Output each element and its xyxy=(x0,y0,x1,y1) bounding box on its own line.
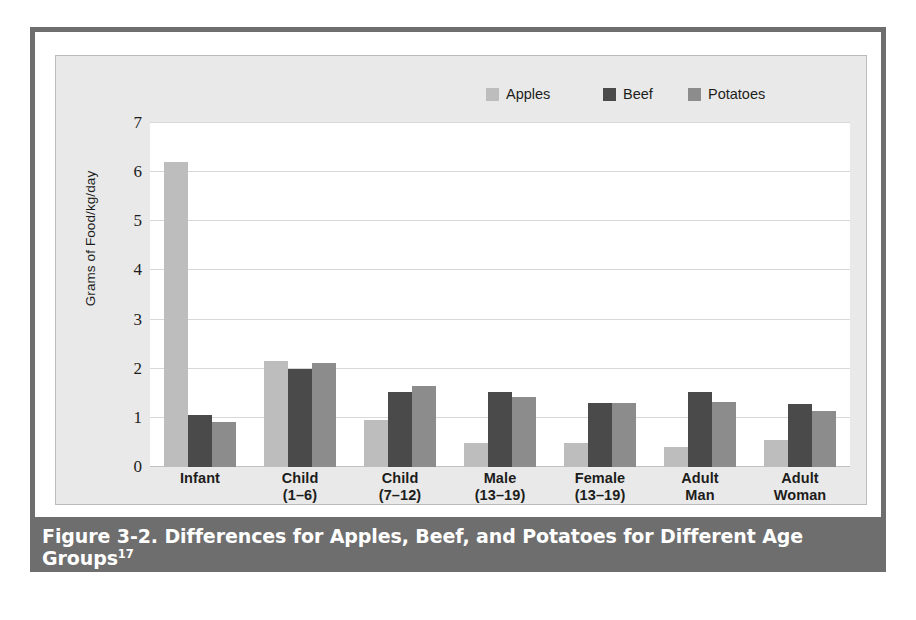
x-tick-label-line1: Adult xyxy=(781,470,819,486)
x-tick-label-line1: Infant xyxy=(180,470,220,486)
x-tick-label-line2: (7–12) xyxy=(350,487,450,504)
legend-label: Apples xyxy=(506,86,550,102)
bar-potatoes xyxy=(312,363,336,467)
bar-potatoes xyxy=(612,403,636,467)
bar-apples xyxy=(464,443,488,467)
bar-potatoes xyxy=(712,402,736,467)
legend-item-beef[interactable]: Beef xyxy=(603,86,653,102)
legend-label: Beef xyxy=(623,86,653,102)
bar-group xyxy=(164,123,236,467)
bar-potatoes xyxy=(812,411,836,468)
x-tick-label-line1: Adult xyxy=(681,470,719,486)
bar-apples xyxy=(764,440,788,467)
bar-apples xyxy=(364,420,388,467)
x-tick-label-line1: Child xyxy=(282,470,319,486)
figure-caption-text: Figure 3-2. Differences for Apples, Beef… xyxy=(42,525,803,569)
figure-caption-bar: Figure 3-2. Differences for Apples, Beef… xyxy=(30,522,886,572)
legend-swatch-beef-icon xyxy=(603,88,616,101)
y-tick-label: 5 xyxy=(116,211,142,231)
bar-group xyxy=(264,123,336,467)
y-axis-tick-labels: 01234567 xyxy=(112,123,142,467)
bar-potatoes xyxy=(412,386,436,467)
bar-group xyxy=(364,123,436,467)
legend-swatch-potatoes-icon xyxy=(688,88,701,101)
x-tick-label-line2: Woman xyxy=(750,487,850,504)
y-tick-label: 2 xyxy=(116,359,142,379)
y-tick-label: 7 xyxy=(116,113,142,133)
y-tick-label: 1 xyxy=(116,408,142,428)
bar-beef xyxy=(488,392,512,467)
bar-beef xyxy=(188,415,212,467)
figure-caption: Figure 3-2. Differences for Apples, Beef… xyxy=(30,525,886,569)
x-tick-label-line2: Man xyxy=(650,487,750,504)
bar-apples xyxy=(164,162,188,467)
legend-label: Potatoes xyxy=(708,86,765,102)
bar-group xyxy=(664,123,736,467)
legend-swatch-apples-icon xyxy=(486,88,499,101)
x-tick-label: Infant xyxy=(150,470,250,487)
bar-group xyxy=(564,123,636,467)
bar-group xyxy=(464,123,536,467)
y-tick-label: 6 xyxy=(116,162,142,182)
y-axis-title: Grams of Food/kg/day xyxy=(83,149,98,329)
y-tick-label: 0 xyxy=(116,457,142,477)
x-axis-tick-labels: InfantChild(1–6)Child(7–12)Male(13–19)Fe… xyxy=(150,470,850,526)
x-tick-label: Child(1–6) xyxy=(250,470,350,504)
bar-apples xyxy=(564,443,588,467)
x-tick-label-line1: Child xyxy=(382,470,419,486)
bar-beef xyxy=(588,403,612,467)
bar-beef xyxy=(288,369,312,467)
x-tick-label: Female(13–19) xyxy=(550,470,650,504)
legend-item-apples[interactable]: Apples xyxy=(486,86,550,102)
bar-apples xyxy=(264,361,288,467)
bar-beef xyxy=(688,392,712,467)
bar-beef xyxy=(788,404,812,467)
bar-group xyxy=(764,123,836,467)
x-tick-label: Male(13–19) xyxy=(450,470,550,504)
x-tick-label-line2: (1–6) xyxy=(250,487,350,504)
bar-potatoes xyxy=(512,397,536,467)
x-tick-label: AdultWoman xyxy=(750,470,850,504)
bars-layer xyxy=(150,123,850,467)
legend-item-potatoes[interactable]: Potatoes xyxy=(688,86,765,102)
bar-apples xyxy=(664,447,688,467)
figure-frame: Grams of Food/kg/day 01234567 InfantChil… xyxy=(30,27,886,522)
bar-potatoes xyxy=(212,422,236,467)
x-tick-label: AdultMan xyxy=(650,470,750,504)
x-tick-label-line2: (13–19) xyxy=(450,487,550,504)
figure-caption-superscript: 17 xyxy=(118,547,134,561)
x-tick-label-line1: Male xyxy=(484,470,517,486)
bar-beef xyxy=(388,392,412,467)
y-tick-label: 4 xyxy=(116,260,142,280)
chart-panel: Grams of Food/kg/day 01234567 InfantChil… xyxy=(55,55,867,505)
x-tick-label: Child(7–12) xyxy=(350,470,450,504)
figure-container: Grams of Food/kg/day 01234567 InfantChil… xyxy=(30,27,886,572)
x-tick-label-line1: Female xyxy=(575,470,626,486)
y-tick-label: 3 xyxy=(116,310,142,330)
x-tick-label-line2: (13–19) xyxy=(550,487,650,504)
